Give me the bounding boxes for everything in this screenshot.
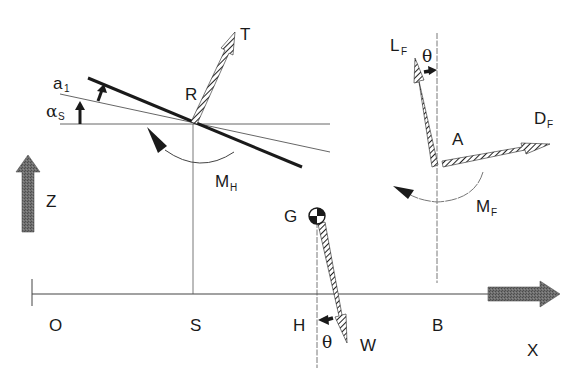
center-of-gravity-icon <box>309 208 325 224</box>
alpha-s-arrow-icon <box>75 101 85 124</box>
label-foil-moment: M F <box>476 197 497 218</box>
label-drag-sub: F <box>547 119 553 130</box>
label-a: A <box>452 130 464 149</box>
label-a1-sub: 1 <box>64 83 70 94</box>
x-axis <box>32 279 560 307</box>
thrust-arrow-icon <box>191 32 235 124</box>
label-w: W <box>360 336 376 355</box>
label-o: O <box>49 316 62 335</box>
label-t: T <box>240 25 250 44</box>
label-theta-bottom: θ <box>322 332 332 352</box>
label-h: H <box>293 316 305 335</box>
label-mh-main: M <box>215 172 229 191</box>
theta-top-arrow-icon <box>424 66 437 75</box>
foil-moment-arc-icon <box>393 172 483 202</box>
weight-arrow-icon <box>318 222 347 343</box>
label-a1-main: a <box>53 74 63 93</box>
label-hull-moment: M H <box>215 172 237 193</box>
label-drag: D F <box>534 109 553 130</box>
label-alpha-sub: S <box>58 111 65 122</box>
label-x: X <box>527 341 538 360</box>
label-lift-main: L <box>390 36 399 55</box>
label-drag-main: D <box>534 109 546 128</box>
label-s: S <box>190 316 201 335</box>
label-lift-sub: F <box>401 46 407 57</box>
label-r: R <box>185 85 197 104</box>
lift-arrow-icon <box>414 58 438 167</box>
label-mh-sub: H <box>230 182 237 193</box>
label-z: Z <box>46 192 56 211</box>
label-mf-main: M <box>476 197 490 216</box>
force-diagram: O S H B X Z R T A G W θ θ L F D F M H M … <box>0 0 579 384</box>
label-alpha-s: α S <box>46 101 65 122</box>
label-mf-sub: F <box>491 207 497 218</box>
label-b: B <box>432 316 443 335</box>
label-g: G <box>284 207 297 226</box>
label-theta-top: θ <box>422 46 432 66</box>
label-lift: L F <box>390 36 407 57</box>
theta-bottom-arrow-icon <box>318 315 333 325</box>
x-axis-arrow-icon <box>488 281 560 307</box>
label-alpha-main: α <box>46 101 58 121</box>
z-axis-arrow-icon <box>16 155 40 232</box>
label-a1: a 1 <box>53 74 70 94</box>
